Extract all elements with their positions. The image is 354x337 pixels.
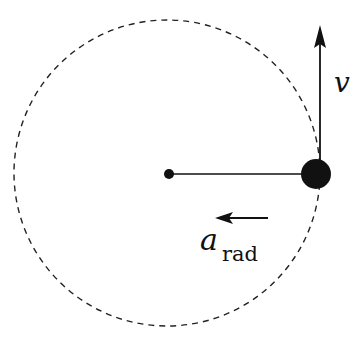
center-point: [164, 169, 174, 179]
acceleration-label: a: [200, 222, 218, 257]
circular-motion-diagram: v a rad: [0, 0, 354, 337]
velocity-arrow: [314, 25, 326, 165]
acceleration-arrow: [215, 212, 268, 224]
velocity-label: v: [334, 66, 350, 99]
acceleration-subscript: rad: [222, 242, 258, 266]
particle: [301, 159, 331, 189]
diagram-canvas: [0, 0, 354, 337]
